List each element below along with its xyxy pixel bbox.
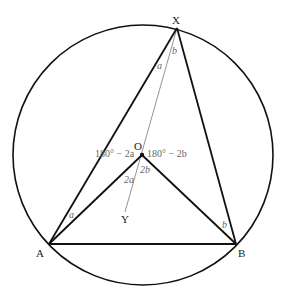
label-b: B xyxy=(238,247,245,259)
angle-b-at-x: b xyxy=(172,45,177,56)
label-y: Y xyxy=(121,213,129,225)
angle-b-at-b: b xyxy=(222,219,227,230)
label-o: O xyxy=(134,140,142,152)
label-x: X xyxy=(172,14,180,26)
label-a: A xyxy=(36,247,44,259)
angle-a-at-a: a xyxy=(69,209,74,220)
side-xb xyxy=(177,28,236,244)
angle-a-at-x: a xyxy=(157,60,162,71)
radius-ob xyxy=(142,155,236,244)
angle-2a-o: 2a xyxy=(124,174,134,185)
angle-2b-o: 2b xyxy=(140,164,150,175)
geometry-diagram: X A B O Y b a a b 180° − 2a 180° − 2b 2a… xyxy=(0,0,283,298)
radius-oa xyxy=(49,155,142,244)
center-point xyxy=(140,153,144,157)
angle-right-o: 180° − 2b xyxy=(147,148,187,159)
angle-left-o: 180° − 2a xyxy=(95,148,135,159)
